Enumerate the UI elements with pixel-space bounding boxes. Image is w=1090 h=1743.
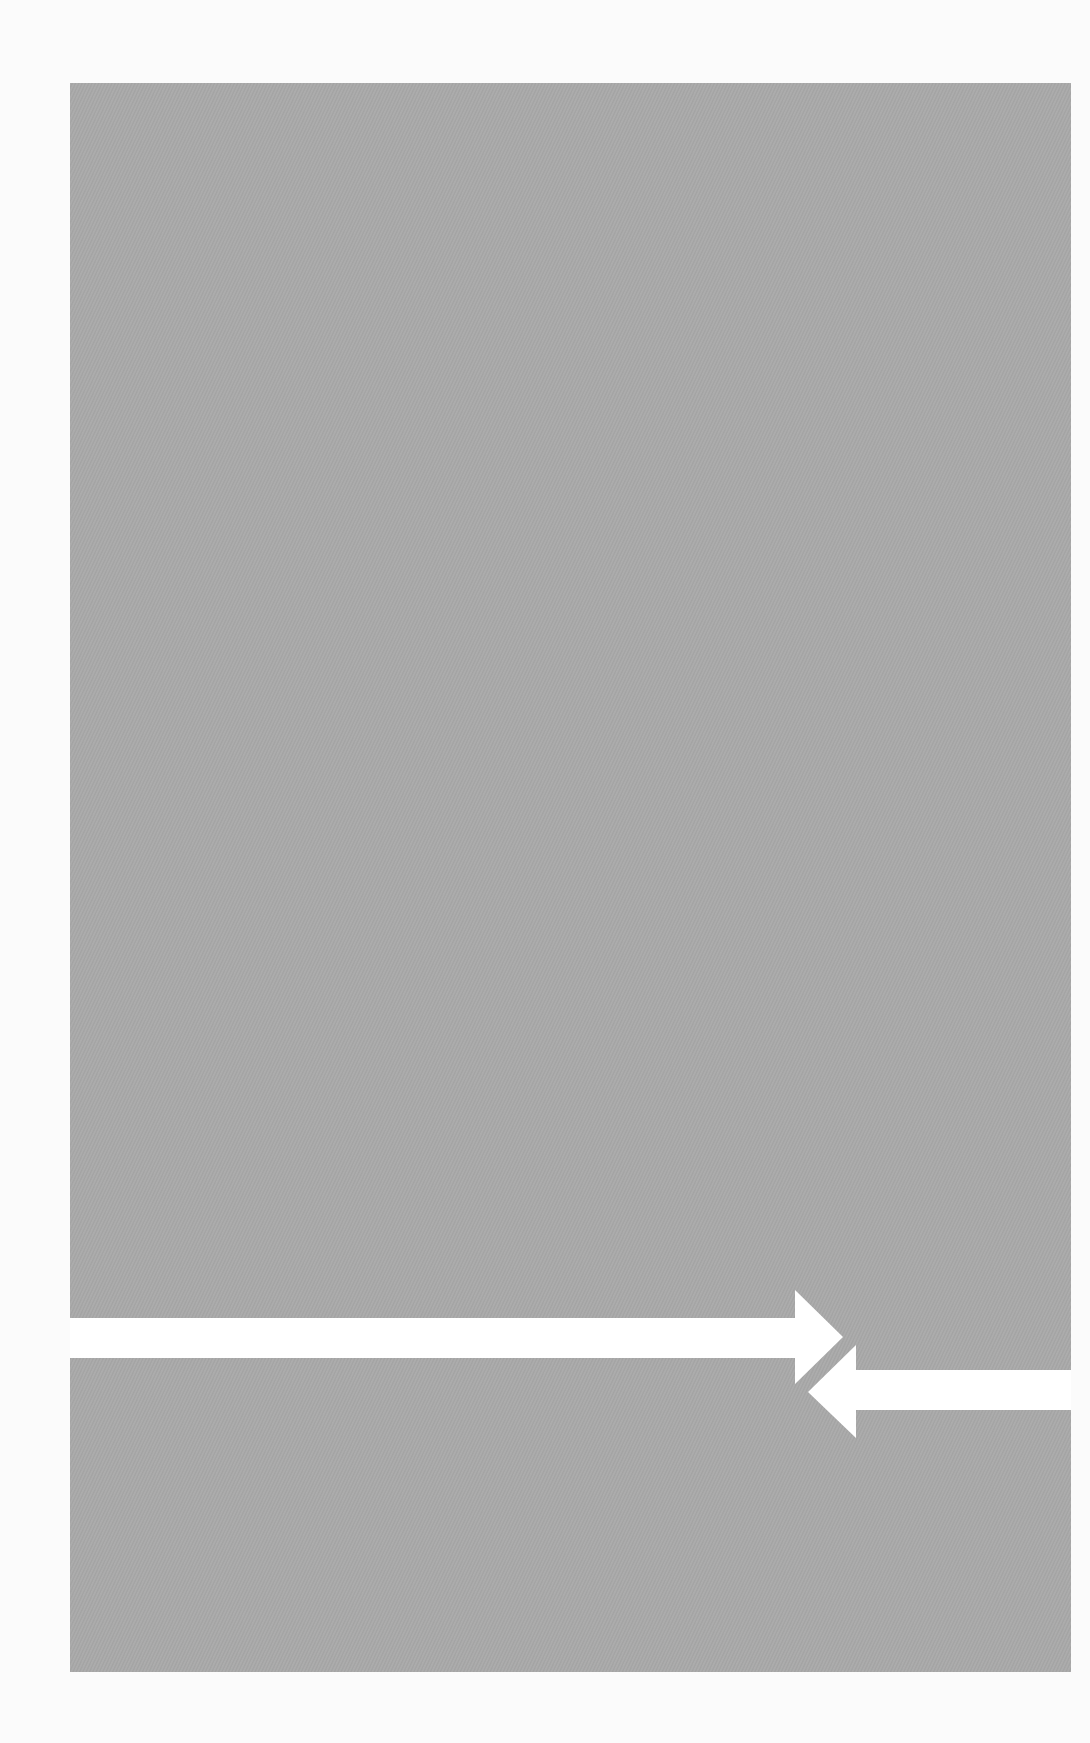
arrows-graphic [0, 0, 1090, 1743]
left-arrow-icon [808, 1345, 1071, 1438]
right-arrow-icon [70, 1290, 843, 1384]
